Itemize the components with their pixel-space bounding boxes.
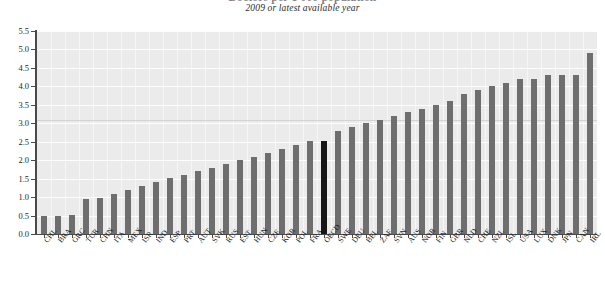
gridline-vertical [345, 31, 346, 234]
reference-line [37, 120, 597, 121]
bar-esp [167, 178, 173, 234]
bar-pol [293, 145, 299, 234]
bar-svk [209, 168, 215, 234]
gridline-vertical [135, 31, 136, 234]
y-axis-tick [31, 179, 36, 180]
y-axis-tick-label: 2.0 [7, 156, 29, 164]
gridline-vertical [527, 31, 528, 234]
y-axis-tick [31, 123, 36, 124]
bar-isr [139, 186, 145, 234]
gridline-vertical [499, 31, 500, 234]
gridline-vertical [331, 31, 332, 234]
gridline-vertical [149, 31, 150, 234]
bar-prt [181, 175, 187, 234]
y-axis-tick-label: 0.0 [7, 230, 29, 238]
y-axis-tick [31, 142, 36, 143]
gridline-vertical [303, 31, 304, 234]
gridline-vertical [401, 31, 402, 234]
y-axis-line [35, 30, 37, 235]
bar-jpn [559, 75, 565, 234]
gridline-vertical [387, 31, 388, 234]
bar-hun [251, 157, 257, 235]
gridline-vertical [79, 31, 80, 234]
bar-nzl [489, 86, 495, 234]
y-axis-tick-label: 3.5 [7, 101, 29, 109]
y-axis-tick [31, 197, 36, 198]
bar-gbr [447, 101, 453, 234]
bar-usa [517, 79, 523, 234]
chart-title: Doctors per 1 000 population [0, 0, 605, 2]
bar-dnk [545, 75, 551, 234]
gridline-vertical [541, 31, 542, 234]
gridline-vertical [163, 31, 164, 234]
bar-fin [433, 105, 439, 234]
gridline-vertical [555, 31, 556, 234]
gridline-vertical [317, 31, 318, 234]
gridline-vertical [583, 31, 584, 234]
gridline-vertical [205, 31, 206, 234]
gridline-vertical [93, 31, 94, 234]
bar-svn [391, 116, 397, 234]
gridline-vertical [107, 31, 108, 234]
gridline-vertical [485, 31, 486, 234]
gridline-vertical [415, 31, 416, 234]
y-axis-tick-label: 4.0 [7, 82, 29, 90]
bar-est [237, 160, 243, 234]
bar-zaf [377, 120, 383, 234]
gridline-vertical [443, 31, 444, 234]
gridline-vertical [177, 31, 178, 234]
bar-che [475, 90, 481, 234]
y-axis-tick-label: 1.0 [7, 193, 29, 201]
bar-deu [349, 127, 355, 234]
y-axis-tick [31, 68, 36, 69]
bar-aus [405, 112, 411, 234]
gridline-vertical [513, 31, 514, 234]
gridline-vertical [219, 31, 220, 234]
bar-swe [335, 131, 341, 234]
gridline-vertical [261, 31, 262, 234]
y-axis-tick-label: 2.5 [7, 138, 29, 146]
bar-ind [153, 182, 159, 234]
gridline-vertical [233, 31, 234, 234]
y-axis-tick [31, 31, 36, 32]
bar-chn [97, 198, 103, 234]
gridline-vertical [65, 31, 66, 234]
bar-kor [279, 149, 285, 234]
plot-area [37, 31, 597, 234]
gridline-vertical [373, 31, 374, 234]
y-axis-tick-label: 1.5 [7, 175, 29, 183]
y-axis-tick [31, 49, 36, 50]
y-axis-tick [31, 216, 36, 217]
y-axis-tick-label: 4.5 [7, 64, 29, 72]
gridline-vertical [191, 31, 192, 234]
gridline-vertical [51, 31, 52, 234]
gridline-vertical [289, 31, 290, 234]
y-axis-tick-label: 3.0 [7, 119, 29, 127]
gridline-vertical [121, 31, 122, 234]
bar-nld [461, 94, 467, 234]
gridline-vertical [247, 31, 248, 234]
y-axis-tick-label: 5.5 [7, 27, 29, 35]
bar-ita [111, 194, 117, 234]
gridline-vertical [429, 31, 430, 234]
gridline-vertical [569, 31, 570, 234]
bar-chl [41, 216, 47, 234]
y-axis-tick-label: 5.0 [7, 45, 29, 53]
chart-subtitle: 2009 or latest available year [0, 3, 605, 13]
bar-aut [195, 171, 201, 234]
gridline-vertical [457, 31, 458, 234]
bar-bel [363, 123, 369, 234]
bar-lux [531, 79, 537, 234]
gridline-vertical [471, 31, 472, 234]
y-axis-tick [31, 160, 36, 161]
chart-header: Doctors per 1 000 population 2009 or lat… [0, 0, 605, 16]
bar-cze [265, 153, 271, 234]
bar-fra [307, 141, 313, 234]
y-axis-tick-label: 0.5 [7, 212, 29, 220]
chart-figure: Doctors per 1 000 population 2009 or lat… [0, 0, 605, 287]
bar-irl [587, 53, 593, 234]
gridline-vertical [359, 31, 360, 234]
y-axis-tick [31, 234, 36, 235]
bar-oecd [321, 141, 327, 234]
bar-rus [223, 164, 229, 234]
